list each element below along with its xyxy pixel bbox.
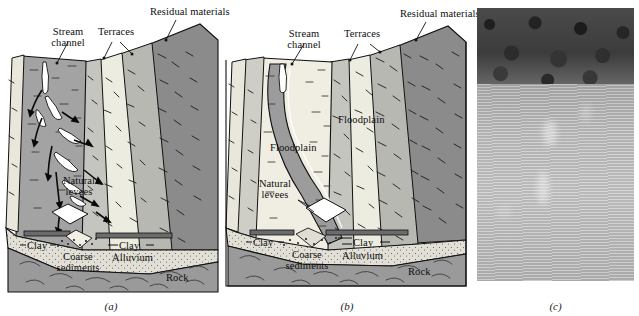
clay-band-left [250,230,294,235]
panel-b-diagram [222,0,472,316]
label-coarse-sediments: Coarse sediments [280,249,334,271]
panel-a-caption: (a) [0,300,222,312]
label-terraces: Terraces [344,28,380,39]
label-floodplain-lower: Floodplain [270,142,317,153]
panel-b-caption: (b) [222,300,472,312]
label-clay-right: Clay [353,237,373,248]
label-floodplain-upper: Floodplain [338,114,385,125]
label-clay-left: Clay [27,240,47,251]
label-stream-channel: Stream channel [44,26,92,48]
panel-c-caption: (c) [472,300,639,312]
label-coarse-sediments: Coarse sediments [52,251,104,273]
photo-floodplain-field [477,84,634,281]
channel-head [279,64,287,93]
label-terraces: Terraces [98,26,134,37]
figure-root: Stream channel Terraces Residual materia… [0,0,639,316]
label-stream-channel: Stream channel [280,28,328,50]
label-residual-materials: Residual materials [150,6,230,17]
panel-a: Stream channel Terraces Residual materia… [0,0,222,316]
panel-a-diagram [0,0,222,316]
label-rock: Rock [166,272,189,283]
label-clay-left: Clay [253,237,273,248]
clay-band-left [24,231,70,236]
photo-bright-spot [537,171,549,205]
clay-band-right [326,230,408,235]
photo-bright-spot [496,206,512,218]
panel-b: Stream channel Terraces Residual materia… [222,0,472,316]
photo-bright-spot [581,104,591,122]
label-residual-materials: Residual materials [400,8,480,19]
label-alluvium: Alluvium [342,250,383,261]
label-alluvium: Alluvium [112,252,153,263]
label-natural-levees: Natural levees [56,175,102,197]
aerial-photograph [477,8,634,281]
photo-bright-spot [543,120,557,146]
panel-c: (c) [472,0,639,316]
label-rock: Rock [408,266,431,277]
label-clay-right: Clay [119,240,139,251]
label-natural-levees: Natural levees [252,178,298,200]
clay-band-right [96,233,172,238]
photo-tree-line [477,8,634,90]
